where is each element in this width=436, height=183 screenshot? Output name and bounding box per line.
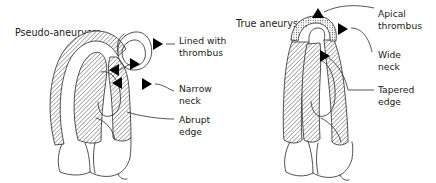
label-lined-with-thrombus-line2: thrombus [179, 47, 223, 58]
label-tapered-edge-line1: Tapered [377, 84, 414, 95]
arrowhead-wide-neck-upper [338, 23, 348, 35]
arrowhead-lined-with-thrombus [153, 38, 163, 50]
annotation-apical-thrombus: Apical thrombus [378, 8, 422, 31]
label-abrupt-edge-line1: Abrupt [179, 114, 211, 125]
leader-apical-thrombus [324, 6, 374, 12]
label-lined-with-thrombus-line1: Lined with [179, 35, 227, 46]
ventricle-base-left-a [58, 143, 90, 175]
annotation-wide-neck: Wide neck [378, 49, 401, 72]
ventricle-base-right-c [317, 143, 319, 174]
leader-abrupt-edge [127, 112, 174, 119]
ventricle-base-left-b [90, 139, 131, 176]
leader-narrow-neck [155, 84, 174, 91]
label-abrupt-edge-line2: edge [179, 126, 202, 137]
ventricle-base-right-a [285, 141, 313, 176]
aneurysm-comparison-figure: Pseudo-aneurysm [0, 0, 436, 183]
label-wide-neck-line1: Wide [378, 49, 401, 60]
annotation-abrupt-edge: Abrupt edge [179, 114, 211, 137]
label-apical-thrombus-line1: Apical [378, 8, 406, 19]
arrowhead-sac-pointer [130, 58, 140, 70]
annotation-lined-with-thrombus: Lined with thrombus [179, 35, 227, 58]
label-narrow-neck-line2: neck [179, 95, 202, 106]
myocardium-septum-left [74, 52, 107, 143]
panel-true-aneurysm: True aneurysm [235, 6, 422, 181]
arrowhead-apical-thrombus [312, 8, 324, 18]
ventricle-base-right-d [340, 175, 349, 180]
myocardium-septum-right [302, 43, 321, 142]
annotation-tapered-edge: Tapered edge [377, 84, 414, 107]
label-narrow-neck-line1: Narrow [179, 83, 212, 94]
apex-inner-outline [309, 28, 325, 42]
leader-wide-neck [351, 28, 372, 52]
label-wide-neck-line2: neck [378, 61, 401, 72]
ventricle-base-left-c [94, 143, 96, 173]
label-apical-thrombus-line2: thrombus [378, 20, 422, 31]
diagram-canvas: Pseudo-aneurysm [0, 0, 436, 183]
annotation-narrow-neck: Narrow neck [179, 83, 212, 106]
ventricle-base-right-b [313, 142, 353, 177]
ventricle-base-left-d [118, 174, 127, 179]
panel-pseudo-aneurysm: Pseudo-aneurysm [15, 27, 227, 179]
label-tapered-edge-line2: edge [378, 96, 401, 107]
arrowhead-narrow-neck [142, 78, 152, 90]
